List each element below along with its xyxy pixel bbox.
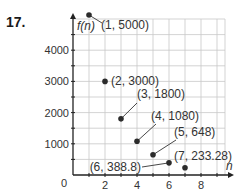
svg-text:2000: 2000 [45,107,69,119]
svg-text:3000: 3000 [45,75,69,87]
svg-text:(1, 5000): (1, 5000) [101,18,149,32]
svg-text:(3, 1800): (3, 1800) [137,87,185,101]
svg-text:(2, 3000): (2, 3000) [111,74,159,88]
svg-text:6: 6 [166,179,172,191]
svg-text:(6, 388.8): (6, 388.8) [90,160,141,174]
svg-text:0: 0 [61,177,67,189]
scatter-chart: nf(n) 246801000200030004000 (1, 5000)(2,… [0,0,243,195]
svg-text:(4, 1080): (4, 1080) [151,109,199,123]
svg-text:1000: 1000 [45,138,69,150]
svg-text:4000: 4000 [45,44,69,56]
data-points: (1, 5000)(2, 3000)(3, 1800)(4, 1080)(5, … [86,12,232,174]
svg-text:8: 8 [198,179,204,191]
svg-text:2: 2 [102,179,108,191]
svg-text:(7, 233.28): (7, 233.28) [174,149,232,163]
svg-text:4: 4 [134,179,140,191]
svg-text:f(n): f(n) [77,19,95,33]
svg-text:(5, 648): (5, 648) [174,125,215,139]
